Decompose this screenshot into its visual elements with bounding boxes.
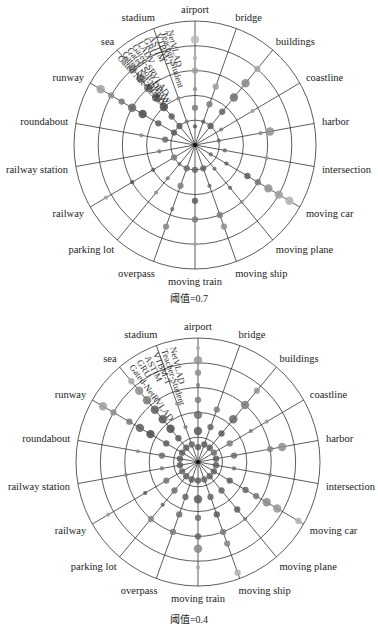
data-point xyxy=(151,168,155,172)
data-point xyxy=(183,425,187,429)
data-point xyxy=(128,104,136,112)
data-point xyxy=(193,124,197,128)
data-point xyxy=(200,165,206,171)
data-point xyxy=(207,494,213,500)
data-point xyxy=(161,503,165,507)
data-point xyxy=(163,223,169,229)
data-point xyxy=(264,184,272,192)
category-label-airport: airport xyxy=(184,321,212,332)
data-point xyxy=(213,456,219,462)
category-label-moving-ship: moving ship xyxy=(239,585,291,596)
data-point xyxy=(170,529,176,535)
data-point xyxy=(195,533,201,539)
data-point xyxy=(207,445,213,451)
data-point xyxy=(218,487,224,493)
data-point xyxy=(136,449,140,453)
category-label-airport: airport xyxy=(181,4,209,15)
data-point xyxy=(207,473,213,479)
data-point xyxy=(214,511,220,517)
data-point xyxy=(195,515,201,521)
center-point xyxy=(193,143,197,147)
data-point xyxy=(177,162,181,166)
data-point xyxy=(227,477,233,483)
data-point xyxy=(192,216,198,222)
category-label-moving-plane: moving plane xyxy=(276,244,334,255)
data-point xyxy=(243,517,247,521)
data-point xyxy=(214,406,220,412)
data-point xyxy=(219,109,225,115)
data-point xyxy=(179,468,185,474)
data-point xyxy=(130,180,134,184)
data-point xyxy=(273,504,281,512)
data-point xyxy=(170,207,174,211)
data-point xyxy=(217,139,221,143)
data-point xyxy=(295,518,301,524)
data-point xyxy=(110,409,116,415)
data-point xyxy=(177,462,183,468)
data-point xyxy=(219,127,223,131)
data-point xyxy=(146,430,154,438)
data-point xyxy=(177,456,183,462)
data-point xyxy=(195,477,201,483)
category-label-harbor: harbor xyxy=(322,116,350,127)
data-point xyxy=(249,429,253,433)
data-point xyxy=(193,242,197,246)
data-point xyxy=(192,105,198,111)
data-point xyxy=(162,136,168,142)
category-label-railway: railway xyxy=(53,208,85,219)
data-point xyxy=(175,435,181,441)
data-point xyxy=(192,67,198,73)
data-point xyxy=(201,476,207,482)
method-labels: NetVLADTeacher-StudentVTBM-TASTIMGRULADV… xyxy=(115,29,186,108)
data-point xyxy=(228,186,232,190)
data-point xyxy=(240,200,244,204)
data-point xyxy=(196,346,200,350)
data-point xyxy=(182,494,188,500)
category-label-buildings: buildings xyxy=(276,36,315,47)
data-point xyxy=(171,129,177,135)
data-point xyxy=(264,156,268,160)
category-label-moving-train: moving train xyxy=(168,276,223,287)
data-point xyxy=(166,176,170,180)
category-label-railway-station: railway station xyxy=(8,481,71,492)
data-point xyxy=(227,440,233,446)
data-point xyxy=(212,167,216,171)
data-point xyxy=(177,183,183,189)
data-point xyxy=(258,131,262,135)
data-point xyxy=(201,441,207,447)
data-point xyxy=(191,35,199,43)
polar-chart-svg: airportbridgebuildingscoastlineharborint… xyxy=(0,0,378,317)
chart-caption: 阈值=0.7 xyxy=(170,292,208,304)
category-label-overpass: overpass xyxy=(121,585,158,596)
data-point xyxy=(118,98,124,104)
data-point xyxy=(196,565,200,569)
data-point xyxy=(207,184,211,188)
data-point xyxy=(139,133,143,137)
category-label-railway: railway xyxy=(55,525,87,536)
data-point xyxy=(189,476,195,482)
data-point xyxy=(231,452,237,458)
data-point xyxy=(126,419,132,425)
data-point xyxy=(193,56,197,60)
data-point xyxy=(171,154,177,160)
grid-spoke xyxy=(195,145,273,240)
data-point xyxy=(169,113,175,119)
data-point xyxy=(213,84,219,90)
data-point xyxy=(229,415,237,423)
data-point xyxy=(148,516,154,522)
data-point xyxy=(213,462,219,468)
data-point xyxy=(163,440,169,446)
data-point xyxy=(189,441,195,447)
data-point xyxy=(262,498,270,506)
category-labels: airportbridgebuildingscoastlineharborint… xyxy=(8,321,376,604)
category-label-moving-ship: moving ship xyxy=(235,268,287,279)
data-point xyxy=(211,450,217,456)
data-point xyxy=(155,120,161,126)
data-point xyxy=(217,212,223,218)
data-point xyxy=(221,223,227,229)
category-label-intersection: intersection xyxy=(322,164,372,175)
data-point xyxy=(268,473,272,477)
data-point xyxy=(194,495,202,503)
data-point xyxy=(183,445,189,451)
category-labels: airportbridgebuildingscoastlineharborint… xyxy=(6,4,372,287)
